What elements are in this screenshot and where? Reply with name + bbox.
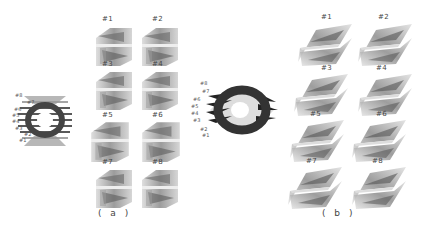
tile-plot-b2 — [356, 22, 416, 68]
main-label: #6 — [193, 96, 200, 102]
tile-plot-b1 — [296, 22, 356, 68]
tile-label: #8 — [372, 157, 383, 165]
tile-plot-a4 — [138, 68, 182, 112]
main-label: #5 — [191, 103, 198, 109]
tile-label: #2 — [152, 15, 163, 23]
tile-plot-b5 — [288, 118, 348, 164]
tile-label: #5 — [310, 110, 321, 118]
tile-plot-b8 — [350, 165, 410, 211]
tile-label: #4 — [152, 60, 163, 68]
main-label: #8 — [15, 92, 22, 98]
tile-plot-a8 — [138, 166, 182, 210]
panel-caption-b: ( b ) — [322, 208, 355, 218]
tile-label: #3 — [321, 64, 332, 72]
tile-label: #1 — [321, 13, 332, 21]
tile-label: #2 — [378, 13, 389, 21]
main-label: #7 — [27, 99, 34, 105]
tile-label: #3 — [102, 60, 113, 68]
main-label: #1 — [202, 132, 209, 138]
main-label: #7 — [202, 88, 209, 94]
tile-plot-a3 — [92, 68, 136, 112]
tile-plot-b7 — [286, 165, 346, 211]
main-label: #1 — [19, 137, 26, 143]
tile-label: #4 — [376, 64, 387, 72]
main-label: #3 — [15, 125, 22, 131]
eye-diagram-graphic — [206, 80, 278, 140]
tile-label: #7 — [102, 158, 113, 166]
tile-plot-a1 — [92, 24, 136, 68]
main-label: #4 — [12, 118, 19, 124]
panel-caption-a: ( a ) — [98, 208, 131, 218]
tile-label: #8 — [152, 158, 163, 166]
main-label: #3 — [193, 117, 200, 123]
tile-label: #1 — [102, 15, 113, 23]
eye-diagram-main-b — [206, 80, 278, 140]
tile-plot-a7 — [92, 166, 136, 210]
main-label: #8 — [200, 80, 207, 86]
tile-label: #6 — [376, 110, 387, 118]
main-label: #4 — [191, 110, 198, 116]
tile-plot-b3 — [292, 72, 352, 118]
tile-label: #7 — [306, 157, 317, 165]
